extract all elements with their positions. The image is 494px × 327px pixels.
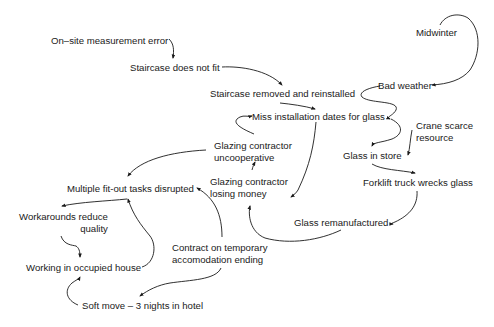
- arrow-measurement-to-staircase: [169, 39, 174, 58]
- node-staircase-removed: Staircase removed and reinstalled: [210, 88, 355, 100]
- node-crane-scarce: Crane scarce resource: [416, 120, 473, 143]
- arrow-contract-to-soft: [140, 268, 221, 296]
- arrow-removed-to-miss: [280, 103, 315, 109]
- node-contract-ending: Contract on temporary accomodation endin…: [172, 242, 267, 265]
- arrow-store-to-forklift: [372, 164, 415, 173]
- node-glazing-losing-money: Glazing contractor losing money: [210, 176, 288, 199]
- arrow-uncoop-to-tasks: [128, 150, 206, 176]
- arrow-midwinter-to-weather: [432, 15, 478, 85]
- node-workarounds-line1: Workarounds reduce: [19, 211, 108, 223]
- node-glass-in-store: Glass in store: [343, 150, 402, 162]
- node-glazing-losing-line1: Glazing contractor: [210, 176, 288, 188]
- arrow-tasks-to-workarounds: [62, 199, 127, 206]
- node-glazing-uncooperative-line1: Glazing contractor: [214, 140, 292, 152]
- node-crane-line1: Crane scarce: [416, 120, 473, 132]
- node-forklift: Forklift truck wrecks glass: [363, 177, 473, 189]
- node-bad-weather: Bad weather: [378, 80, 432, 92]
- node-multiple-tasks-disrupted: Multiple fit-out tasks disrupted: [67, 183, 194, 195]
- node-soft-move: Soft move – 3 nights in hotel: [82, 300, 203, 312]
- arrows-layer: [0, 0, 494, 327]
- node-contract-line1: Contract on temporary: [172, 242, 267, 254]
- node-glazing-uncooperative: Glazing contractor uncooperative: [214, 140, 292, 163]
- node-workarounds: Workarounds reduce quality: [19, 211, 108, 234]
- node-crane-line2: resource: [416, 132, 473, 144]
- node-staircase-not-fit: Staircase does not fit: [130, 62, 220, 74]
- arrow-losing-to-uncoop: [252, 162, 255, 170]
- node-contract-line2: accomodation ending: [172, 254, 267, 266]
- node-glass-remanufactured: Glass remanufactured: [294, 217, 388, 229]
- node-measurement-error: On–site measurement error: [51, 35, 168, 47]
- arrow-weather-to-store: [372, 119, 401, 146]
- node-miss-installation-dates: Miss installation dates for glass: [252, 111, 385, 123]
- node-workarounds-line2: quality: [19, 223, 108, 235]
- node-glazing-uncooperative-line2: uncooperative: [214, 152, 292, 164]
- arrow-staircase-to-removed: [222, 67, 282, 85]
- arrow-soft-to-working: [67, 277, 80, 305]
- node-working-occupied: Working in occupied house: [26, 262, 141, 274]
- node-midwinter: Midwinter: [416, 27, 457, 39]
- arrow-working-to-tasks: [128, 199, 154, 267]
- arrow-miss-to-losing: [291, 122, 316, 197]
- causal-loop-diagram: On–site measurement error Staircase does…: [0, 0, 494, 327]
- node-glazing-losing-line2: losing money: [210, 188, 288, 200]
- arrow-workarounds-to-working: [61, 236, 80, 257]
- arrow-crane-to-store: [408, 130, 412, 155]
- arrow-forklift-to-reman: [392, 191, 418, 224]
